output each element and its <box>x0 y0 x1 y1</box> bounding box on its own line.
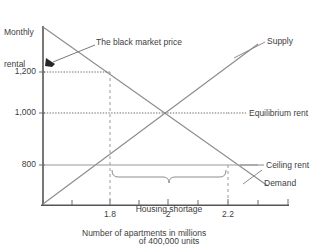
demand-curve-label: Demand <box>264 178 296 189</box>
housing-shortage-annotation: Housing shortage of 400,000 units <box>128 183 210 247</box>
demand-label-leader <box>243 170 262 184</box>
housing-shortage-line1: Housing shortage <box>128 204 210 215</box>
housing-shortage-line2: of 400,000 units <box>128 236 210 247</box>
equilibrium-rent-label: Equilibrium rent <box>249 108 308 119</box>
supply-label-leader <box>234 42 265 58</box>
y-axis-ticks <box>39 72 45 165</box>
y-tick-label-800: 800 <box>0 159 36 169</box>
chart-canvas: Monthly rental 1,200 1,000 800 1.8 2 2.2… <box>0 0 324 247</box>
supply-curve <box>43 44 258 204</box>
black-market-price-annotation: The black market price <box>96 37 182 48</box>
y-axis-title-line1: Monthly <box>4 27 34 38</box>
ceiling-rent-label: Ceiling rent <box>266 160 309 171</box>
x-tick-label-2-2: 2.2 <box>212 209 244 219</box>
y-axis-title: Monthly rental <box>4 6 34 90</box>
x-tick-label-1-8: 1.8 <box>94 209 126 219</box>
demand-curve <box>43 27 268 186</box>
y-tick-label-1200: 1,200 <box>0 66 36 76</box>
housing-shortage-brace <box>112 170 226 183</box>
y-tick-label-1000: 1,000 <box>0 107 36 117</box>
supply-curve-label: Supply <box>267 36 293 47</box>
black-market-price-arrowhead <box>45 58 55 67</box>
